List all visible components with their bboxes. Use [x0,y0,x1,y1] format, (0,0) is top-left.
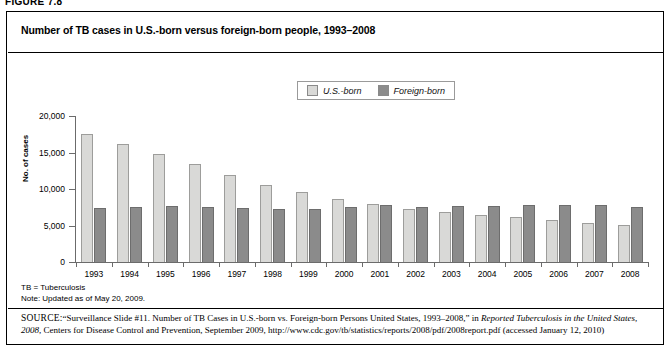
source-text-part-2: , Centers for Disease Control and Preven… [39,325,604,335]
source-divider [8,308,664,309]
bar-u-s-born-1998 [260,185,272,262]
y-tick-label: 15,000 [39,148,65,158]
x-tick-mark [362,263,363,267]
bar-foreign-born-2000 [345,207,357,262]
bar-u-s-born-2001 [367,204,379,262]
x-tick-label-2001: 2001 [362,269,398,279]
bar-u-s-born-1995 [153,154,165,262]
bar-u-s-born-1996 [189,164,201,262]
bar-foreign-born-2007 [595,205,607,262]
bar-foreign-born-2008 [631,207,643,262]
bar-u-s-born-1993 [81,134,93,262]
x-tick-label-2006: 2006 [541,269,577,279]
bar-foreign-born-1997 [237,208,249,262]
x-tick-mark [612,263,613,267]
bar-foreign-born-2004 [488,206,500,262]
x-tick-label-1999: 1999 [291,269,327,279]
x-tick-label-1995: 1995 [148,269,184,279]
bar-foreign-born-2003 [452,206,464,262]
x-tick-label-1993: 1993 [76,269,112,279]
x-tick-label-2003: 2003 [434,269,470,279]
x-tick-label-2002: 2002 [398,269,434,279]
chart-notes: TB = Tuberculosis Note: Updated as of Ma… [21,283,145,304]
x-tick-mark [148,263,149,267]
note-update: Note: Updated as of May 20, 2009. [21,294,145,305]
x-tick-label-1997: 1997 [219,269,255,279]
bar-u-s-born-2005 [510,217,522,262]
bar-u-s-born-2000 [332,199,344,262]
x-tick-mark [112,263,113,267]
bar-foreign-born-1998 [273,209,285,262]
bar-u-s-born-1994 [117,144,129,262]
bar-foreign-born-1999 [309,209,321,262]
bar-foreign-born-2005 [523,205,535,262]
bars-layer [76,12,648,346]
note-abbreviation: TB = Tuberculosis [21,283,145,294]
x-tick-mark [541,263,542,267]
bar-u-s-born-1997 [224,175,236,262]
x-tick-label-1994: 1994 [112,269,148,279]
bar-u-s-born-1999 [296,192,308,262]
x-tick-label-2000: 2000 [326,269,362,279]
x-tick-label-2004: 2004 [469,269,505,279]
bar-foreign-born-1993 [94,208,106,262]
bar-u-s-born-2008 [618,225,630,262]
x-tick-label-2007: 2007 [577,269,613,279]
bar-foreign-born-2001 [380,205,392,262]
x-tick-mark [219,263,220,267]
x-tick-label-1996: 1996 [183,269,219,279]
y-tick-label: 5,000 [44,221,65,231]
bar-foreign-born-1994 [130,207,142,262]
source-text-part-1: “Surveillance Slide #11. Number of TB Ca… [63,313,481,323]
x-tick-mark [183,263,184,267]
bar-foreign-born-1996 [202,207,214,262]
x-tick-label-1998: 1998 [255,269,291,279]
x-tick-label-2005: 2005 [505,269,541,279]
figure-page: FIGURE 7.8 Number of TB cases in U.S.-bo… [0,0,671,354]
figure-container: Number of TB cases in U.S.-born versus f… [6,11,664,345]
y-tick-label: 10,000 [39,184,65,194]
y-tick-label: 20,000 [39,111,65,121]
bar-u-s-born-2004 [475,215,487,262]
x-tick-mark [76,263,77,267]
x-tick-mark [291,263,292,267]
bar-u-s-born-2002 [403,209,415,262]
bar-u-s-born-2006 [546,220,558,262]
bar-u-s-born-2003 [439,212,451,262]
bar-foreign-born-2002 [416,207,428,262]
x-tick-mark [255,263,256,267]
source-label: SOURCE: [21,313,63,323]
x-tick-mark [505,263,506,267]
x-tick-mark [648,263,649,267]
x-tick-mark [469,263,470,267]
x-tick-mark [326,263,327,267]
bar-u-s-born-2007 [582,223,594,262]
x-tick-mark [434,263,435,267]
x-tick-mark [398,263,399,267]
x-tick-mark [577,263,578,267]
source-citation: SOURCE:“Surveillance Slide #11. Number o… [21,313,658,336]
x-tick-label-2008: 2008 [612,269,648,279]
y-tick-label: 0 [60,257,65,267]
figure-number-label: FIGURE 7.8 [5,0,62,7]
bar-foreign-born-2006 [559,205,571,262]
bar-foreign-born-1995 [166,206,178,262]
